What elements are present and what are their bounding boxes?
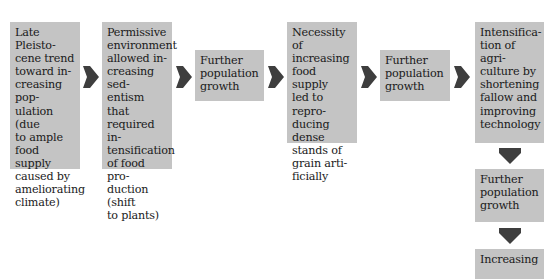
- node-necessity-of-increasing-food: Necessity of increasing food supply led …: [287, 22, 357, 143]
- node-permissive-environment: Permissive environment allowed in- creas…: [102, 22, 172, 169]
- node-increasing: Increasing: [475, 249, 544, 279]
- node-further-population-growth-2: Further population growth: [380, 50, 450, 101]
- node-further-population-growth-3: Further population growth: [475, 169, 544, 222]
- node-further-population-growth-1: Further population growth: [195, 50, 264, 101]
- right-arrow-icon: [454, 62, 470, 92]
- right-arrow-icon: [176, 62, 192, 92]
- right-arrow-icon: [83, 62, 99, 92]
- node-intensification-of-agriculture: Intensifica- tion of agri- culture by sh…: [475, 22, 544, 143]
- down-arrow-icon: [495, 148, 525, 166]
- right-arrow-icon: [361, 62, 377, 92]
- right-arrow-icon: [268, 62, 284, 92]
- down-arrow-icon: [495, 228, 525, 246]
- node-late-pleistocene-trend: Late Pleisto- cene trend toward in- crea…: [10, 22, 80, 169]
